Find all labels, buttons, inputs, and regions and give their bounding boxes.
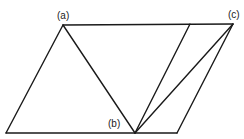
right-edge xyxy=(177,24,233,133)
label-c: (c) xyxy=(228,9,240,20)
top-edge xyxy=(63,24,233,25)
segment-a-b xyxy=(63,25,135,133)
left-edge xyxy=(6,25,63,133)
geometry-diagram: (a) (b) (c) xyxy=(0,0,244,139)
label-a: (a) xyxy=(57,10,69,21)
segment-b-c xyxy=(135,24,233,133)
segment-b-top-inner xyxy=(135,24,190,133)
label-b: (b) xyxy=(108,118,120,129)
